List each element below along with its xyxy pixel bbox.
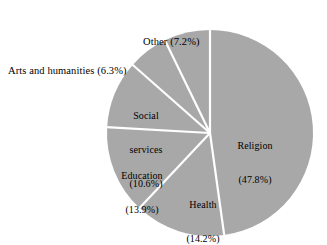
slice-label-other-text: Other (7.2%) (143, 36, 200, 48)
slice-label-religion: Religion (47.8%) (224, 118, 286, 208)
slice-label-education-line1: Education (104, 170, 180, 181)
slice-label-arts-and-humanities: Arts and humanities (6.3%) (8, 41, 127, 100)
slice-label-arts-and-humanities-text: Arts and humanities (6.3%) (8, 65, 127, 77)
slice-label-religion-line1: Religion (224, 140, 286, 151)
slice-label-education-percent: (13.9%) (104, 204, 180, 215)
slice-label-health-line1: Health (176, 199, 230, 210)
slice-label-health: Health (14.2%) (176, 177, 230, 245)
slice-label-social-services-line1: Social (113, 110, 179, 121)
slice-label-education: Education (13.9%) (104, 148, 180, 238)
pie-chart: Other (7.2%) Arts and humanities (6.3%) … (0, 0, 327, 245)
slice-label-other: Other (7.2%) (143, 12, 200, 71)
slice-label-religion-percent: (47.8%) (224, 174, 286, 185)
slice-label-health-percent: (14.2%) (176, 233, 230, 244)
